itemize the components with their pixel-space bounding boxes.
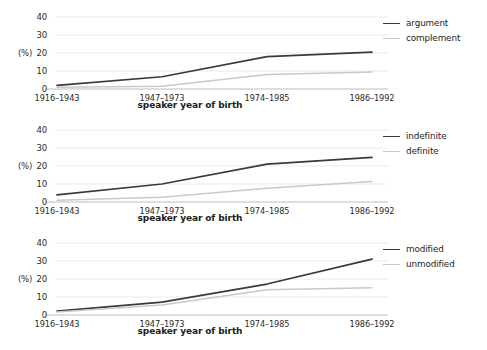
legend-item-label: unmodified <box>406 259 455 269</box>
y-axis-tick-label: 0 <box>21 84 47 94</box>
legend-item-definite[interactable]: definite <box>383 144 446 158</box>
y-axis-label: (%) <box>18 274 32 284</box>
series-line-complement <box>57 72 372 87</box>
y-axis-tick-label: 10 <box>21 66 47 76</box>
y-axis-tick-label: 10 <box>21 292 47 302</box>
legend-item-label: definite <box>406 146 439 156</box>
x-axis-title: speaker year of birth <box>0 213 380 223</box>
y-axis-tick-label: 40 <box>21 238 47 248</box>
y-axis-tick-label: 40 <box>21 12 47 22</box>
legend-item-indefinite[interactable]: indefinite <box>383 129 446 143</box>
multi-panel-line-chart-figure: 403020100(%)1916–19431947–19731974–19851… <box>0 0 487 350</box>
legend-line-swatch-icon <box>383 38 400 39</box>
chart-legend: argumentcomplement <box>383 16 460 46</box>
legend-line-swatch-icon <box>383 136 400 137</box>
legend-item-modified[interactable]: modified <box>383 242 455 256</box>
legend-item-argument[interactable]: argument <box>383 16 460 30</box>
legend-line-swatch-icon <box>383 249 400 250</box>
y-axis-label: (%) <box>18 161 32 171</box>
legend-item-label: argument <box>406 18 448 28</box>
chart-panel-3: 403020100(%)1916–19431947–19731974–19851… <box>0 226 487 341</box>
legend-item-label: modified <box>406 244 444 254</box>
legend-item-unmodified[interactable]: unmodified <box>383 257 455 271</box>
y-axis-tick-label: 0 <box>21 197 47 207</box>
y-axis-tick-label: 40 <box>21 125 47 135</box>
chart-panel-1: 403020100(%)1916–19431947–19731974–19851… <box>0 0 487 115</box>
y-axis-label: (%) <box>18 48 32 58</box>
legend-line-swatch-icon <box>383 264 400 265</box>
chart-legend: modifiedunmodified <box>383 242 455 272</box>
chart-legend: indefinitedefinite <box>383 129 446 159</box>
series-line-unmodified <box>57 288 372 312</box>
legend-item-complement[interactable]: complement <box>383 31 460 45</box>
y-axis-tick-label: 30 <box>21 256 47 266</box>
y-axis-tick-label: 30 <box>21 30 47 40</box>
y-axis-tick-label: 30 <box>21 143 47 153</box>
x-axis-title: speaker year of birth <box>0 100 380 110</box>
legend-line-swatch-icon <box>383 23 400 24</box>
legend-item-label: complement <box>406 33 460 43</box>
legend-line-swatch-icon <box>383 151 400 152</box>
y-axis-tick-label: 10 <box>21 179 47 189</box>
series-line-indefinite <box>57 157 372 194</box>
chart-panel-2: 403020100(%)1916–19431947–19731974–19851… <box>0 113 487 228</box>
legend-item-label: indefinite <box>406 131 446 141</box>
series-line-modified <box>57 259 372 311</box>
y-axis-tick-label: 0 <box>21 310 47 320</box>
x-axis-title: speaker year of birth <box>0 326 380 336</box>
